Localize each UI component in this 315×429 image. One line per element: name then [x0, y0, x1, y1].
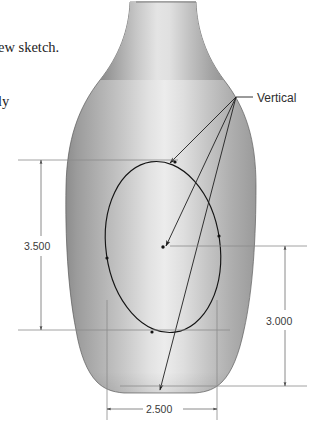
text-fragment-ly: ly — [0, 93, 10, 109]
ellipse-point-left[interactable] — [105, 256, 108, 259]
ellipse-point-bottom[interactable] — [150, 330, 153, 333]
cad-screenshot-canvas: Vertical 3.500 3.000 2.500 — [0, 0, 315, 429]
text-fragment-ew-sketch: ew sketch. — [0, 39, 59, 55]
ellipse-center-point[interactable] — [161, 245, 164, 248]
vase-base-shadow — [60, 300, 265, 400]
vertical-label: Vertical — [257, 91, 296, 105]
ellipse-point-right[interactable] — [217, 234, 220, 237]
dim-3000-value[interactable]: 3.000 — [266, 315, 292, 327]
vase-neck-shading — [100, 2, 224, 80]
vase-model — [60, 2, 265, 400]
ellipse-point-top[interactable] — [173, 160, 176, 163]
dim-3500-value[interactable]: 3.500 — [24, 240, 50, 252]
dim-2500-value[interactable]: 2.500 — [146, 403, 172, 415]
cad-drawing-area: Vertical 3.500 3.000 2.500 — [0, 0, 315, 429]
